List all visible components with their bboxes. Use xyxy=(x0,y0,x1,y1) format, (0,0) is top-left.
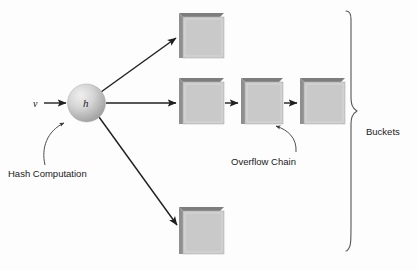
overflow-chain-label: Overflow Chain xyxy=(231,156,296,167)
overflow-chain-callout-line xyxy=(276,126,296,152)
edge-hash-to-bucket-top xyxy=(101,38,176,92)
overflow-bucket-2 xyxy=(300,78,345,124)
buckets-label: Buckets xyxy=(366,126,400,137)
overflow-bucket-1 xyxy=(241,78,283,124)
hash-computation-callout-line xyxy=(44,123,64,165)
bucket-bottom xyxy=(179,207,224,254)
bucket-top xyxy=(179,13,224,58)
bucket-middle xyxy=(179,78,224,124)
hash-function-label: h xyxy=(83,97,89,109)
hash-computation-label: Hash Computation xyxy=(8,168,87,179)
edge-hash-to-bucket-bottom xyxy=(99,117,177,225)
hash-table-diagram: v h Hash Computation Overflow Chain Buck… xyxy=(0,0,417,270)
buckets-brace xyxy=(346,11,357,251)
input-value-label: v xyxy=(33,98,38,109)
diagram-canvas: v h Hash Computation Overflow Chain Buck… xyxy=(0,0,417,270)
